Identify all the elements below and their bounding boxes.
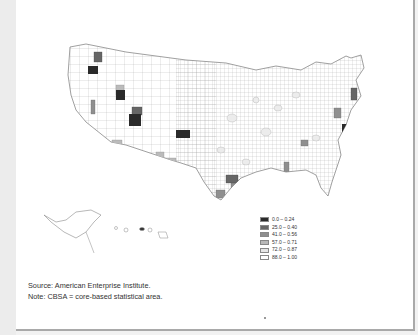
legend-swatch	[260, 217, 269, 222]
alaska	[44, 210, 101, 238]
map-legend: 0.0 – 0.24 25.0 – 0.40 41.0 – 0.56 57.0 …	[260, 216, 297, 262]
us-choropleth-map	[16, 0, 413, 270]
legend-swatch	[260, 240, 269, 245]
hawaii	[115, 227, 169, 239]
legend-item: 57.0 – 0.71	[260, 239, 297, 247]
legend-swatch	[260, 225, 269, 230]
page-margin	[0, 0, 16, 335]
note-text: Note: CBSA = core-based statistical area…	[28, 291, 162, 302]
page-marker-dot	[264, 317, 266, 319]
legend-label: 0.0 – 0.24	[272, 216, 294, 224]
legend-swatch	[260, 248, 269, 253]
legend-label: 88.0 – 1.00	[272, 254, 297, 262]
figure-caption: Source: American Enterprise Institute. N…	[28, 280, 162, 302]
legend-item: 41.0 – 0.56	[260, 231, 297, 239]
legend-label: 25.0 – 0.40	[272, 224, 297, 232]
legend-item: 25.0 – 0.40	[260, 224, 297, 232]
source-text: Source: American Enterprise Institute.	[28, 280, 162, 291]
legend-item: 0.0 – 0.24	[260, 216, 297, 224]
legend-label: 57.0 – 0.71	[272, 239, 297, 247]
legend-label: 41.0 – 0.56	[272, 231, 297, 239]
figure-panel: 0.0 – 0.24 25.0 – 0.40 41.0 – 0.56 57.0 …	[16, 0, 415, 331]
legend-item: 72.0 – 0.87	[260, 246, 297, 254]
legend-label: 72.0 – 0.87	[272, 246, 297, 254]
legend-item: 88.0 – 1.00	[260, 254, 297, 262]
legend-swatch	[260, 255, 269, 260]
legend-swatch	[260, 232, 269, 237]
